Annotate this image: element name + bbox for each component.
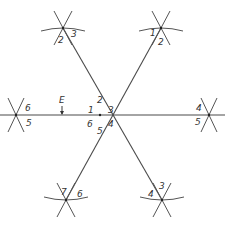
center-angle-label: 2 — [97, 95, 103, 105]
intersection-point — [208, 114, 210, 116]
end-mark-top-left: 23 — [41, 11, 85, 45]
e-marker: E — [59, 95, 65, 115]
angle-label: 5 — [26, 118, 32, 128]
angle-label: 4 — [148, 189, 154, 199]
angle-label: 3 — [71, 29, 77, 39]
angle-label: 1 — [150, 28, 156, 38]
angle-label: 2 — [158, 37, 164, 47]
angle-label: 2 — [58, 35, 64, 45]
angle-label: 5 — [195, 117, 201, 127]
intersection-point — [15, 114, 17, 116]
end-mark-bottom-right: 43 — [140, 181, 184, 217]
center-angle-label: 4 — [108, 119, 114, 129]
arrow-down-icon — [60, 111, 64, 115]
center-angle-label: 1 — [88, 105, 94, 115]
hexagonal-intersection-diagram: 231265457643 123456 E — [0, 0, 225, 230]
angle-label: 7 — [61, 187, 67, 197]
e-label: E — [59, 95, 65, 105]
intersection-point — [161, 199, 163, 201]
intersection-point — [62, 27, 64, 29]
end-mark-bottom-left: 76 — [44, 183, 88, 217]
center-angle-label: 5 — [97, 126, 103, 136]
angle-label: 4 — [196, 103, 202, 113]
center-angle-label: 6 — [87, 119, 93, 129]
end-mark-top-right: 12 — [139, 11, 183, 47]
center-point — [99, 114, 101, 116]
angle-label: 6 — [77, 189, 83, 199]
intersection-point — [160, 27, 162, 29]
center-angle-label: 3 — [108, 105, 114, 115]
angle-label: 6 — [25, 103, 31, 113]
intersection-point — [65, 199, 67, 201]
angle-label: 3 — [159, 181, 165, 191]
